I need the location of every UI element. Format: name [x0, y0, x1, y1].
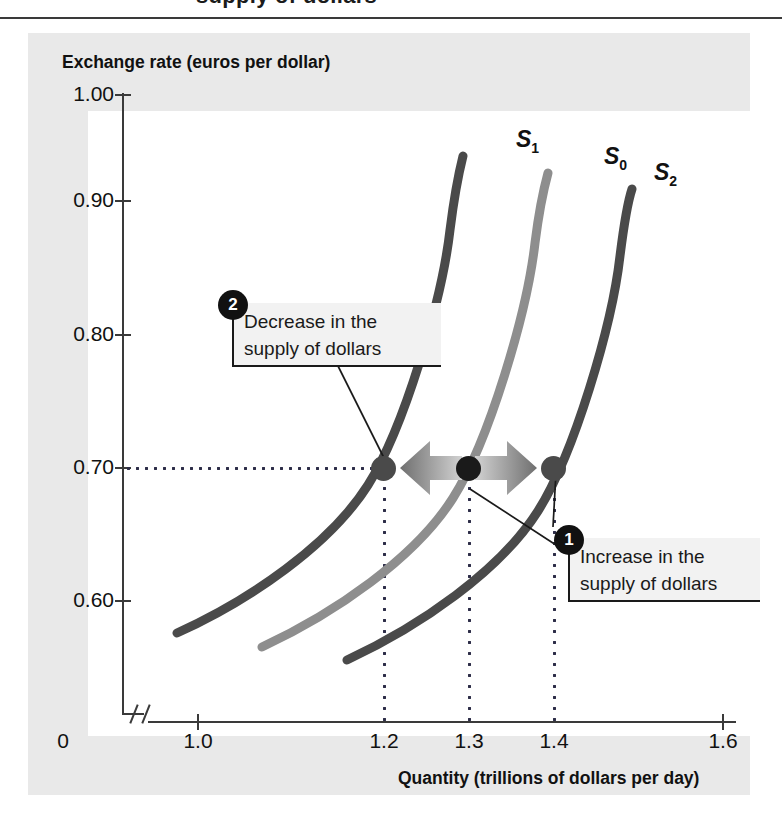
y-tick-1.00 — [115, 94, 131, 96]
callout-increase-supply: Increase in the supply of dollars — [568, 538, 760, 602]
callout-decrease-line2: supply of dollars — [244, 336, 431, 363]
x-tick-label-1.4: 1.4 — [524, 729, 584, 753]
y-tick-label-1.00: 1.00 — [42, 82, 114, 106]
callout-increase-line1: Increase in the — [580, 544, 750, 571]
x-axis-title: Quantity (trillions of dollars per day) — [398, 768, 699, 789]
callout-badge-2: 2 — [218, 290, 248, 320]
curve-label-s1: S1 — [516, 126, 539, 156]
y-tick-label-0.80: 0.80 — [42, 322, 114, 346]
x-tick-1.0 — [197, 714, 199, 730]
guide-line-vertical-1.4 — [553, 472, 556, 721]
guide-line-vertical-1.2 — [383, 472, 386, 721]
guide-line-horizontal-0.70 — [124, 467, 384, 470]
y-axis-lower-stub — [122, 693, 124, 715]
y-tick-0.60 — [115, 600, 131, 602]
curve-label-s1-sub: 1 — [531, 140, 539, 156]
equilibrium-dot-1.4 — [541, 456, 566, 481]
x-tick-1.6 — [722, 714, 724, 730]
callout-increase-line2: supply of dollars — [580, 571, 750, 598]
x-tick-label-1.6: 1.6 — [693, 729, 753, 753]
x-tick-label-1.0: 1.0 — [168, 729, 228, 753]
curve-label-s2: S2 — [654, 159, 677, 189]
curve-label-s0-sub: 0 — [619, 157, 627, 173]
curve-label-s2-base: S — [654, 159, 669, 185]
y-tick-0.90 — [115, 200, 131, 202]
cropped-page-heading: supply of dollars — [0, 0, 782, 8]
y-tick-label-0.90: 0.90 — [42, 188, 114, 212]
y-tick-label-0.60: 0.60 — [42, 588, 114, 612]
callout-badge-1: 1 — [554, 525, 584, 555]
y-tick-label-0.70: 0.70 — [42, 455, 114, 479]
curve-label-s0-base: S — [604, 143, 619, 169]
callout-decrease-line1: Decrease in the — [244, 309, 431, 336]
x-tick-label-1.3: 1.3 — [439, 729, 499, 753]
y-axis-line — [122, 93, 124, 693]
guide-line-vertical-1.3 — [468, 472, 471, 721]
y-tick-0.80 — [115, 334, 131, 336]
x-tick-label-0: 0 — [33, 729, 93, 753]
figure-page: supply of dollars Exchange rate (euros p… — [0, 0, 782, 835]
plot-area — [88, 111, 764, 736]
figure-panel — [28, 33, 750, 795]
callout-decrease-supply: Decrease in the supply of dollars — [232, 303, 441, 367]
y-axis-title: Exchange rate (euros per dollar) — [62, 52, 330, 73]
x-axis-line — [148, 721, 736, 723]
header-divider-rule — [0, 17, 782, 19]
callout-decrease-text: Decrease in the supply of dollars — [234, 303, 441, 370]
equilibrium-dot-1.2 — [371, 456, 396, 481]
curve-label-s2-sub: 2 — [669, 173, 677, 189]
x-tick-label-1.2: 1.2 — [354, 729, 414, 753]
callout-increase-text: Increase in the supply of dollars — [570, 538, 760, 605]
cropped-heading-text: supply of dollars — [196, 0, 377, 8]
curve-label-s1-base: S — [516, 126, 531, 152]
curve-label-s0: S0 — [604, 143, 627, 173]
equilibrium-dot-1.3 — [456, 456, 481, 481]
